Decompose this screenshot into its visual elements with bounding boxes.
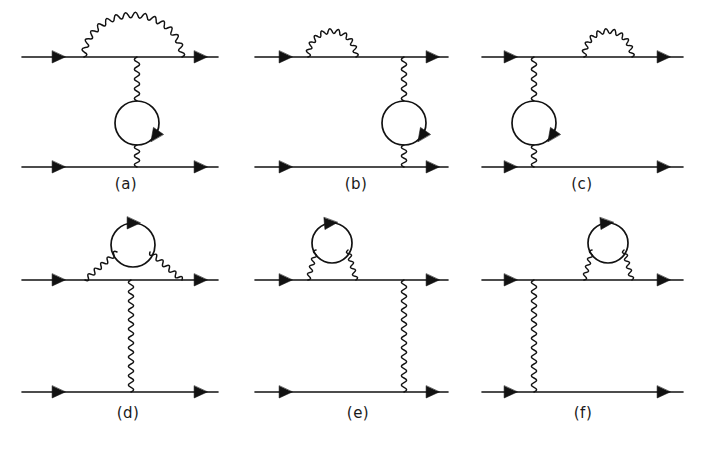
feynman-panel-d: [22, 217, 218, 398]
loop-arrow-icon: [151, 127, 163, 141]
photon-exchange-vertical: [128, 280, 133, 392]
fermion-arrow-icon: [279, 51, 292, 63]
fermion-arrow-icon: [426, 161, 439, 173]
photon-exchange-vertical: [401, 280, 406, 392]
panel-label-d: (d): [117, 404, 140, 422]
loop-arrow-icon: [418, 127, 430, 141]
loop-arrow-icon: [324, 218, 337, 230]
fermion-arrow-icon: [279, 274, 292, 286]
feynman-panel-a: [22, 12, 218, 173]
panel-label-a: (a): [115, 175, 137, 193]
photon-self-energy-arc: [582, 29, 634, 57]
fermion-arrow-icon: [426, 51, 439, 63]
loop-arrow-icon: [548, 127, 560, 141]
fermion-loop-circle: [111, 223, 155, 267]
photon-leg: [85, 251, 117, 280]
feynman-panel-e: [255, 218, 448, 398]
fermion-arrow-icon: [52, 51, 65, 63]
fermion-arrow-icon: [657, 274, 670, 286]
fermion-arrow-icon: [52, 386, 65, 398]
photon-exchange-vertical: [531, 280, 536, 392]
fermion-arrow-icon: [426, 386, 439, 398]
fermion-arrow-icon: [657, 51, 670, 63]
fermion-arrow-icon: [504, 274, 517, 286]
photon-exchange-vertical: [401, 145, 406, 167]
fermion-arrow-icon: [194, 161, 207, 173]
fermion-loop-circle: [588, 223, 628, 263]
loop-arrow-icon: [127, 217, 140, 229]
fermion-arrow-icon: [52, 161, 65, 173]
fermion-loop-circle: [312, 223, 352, 263]
panels-group: [22, 12, 683, 398]
fermion-arrow-icon: [194, 274, 207, 286]
feynman-panel-f: [482, 218, 683, 398]
fermion-arrow-icon: [426, 274, 439, 286]
fermion-arrow-icon: [52, 274, 65, 286]
fermion-arrow-icon: [194, 51, 207, 63]
fermion-arrow-icon: [657, 386, 670, 398]
feynman-diagram-figure: (a)(b)(c)(d)(e)(f): [0, 0, 711, 456]
photon-exchange-vertical: [401, 57, 406, 101]
panel-label-b: (b): [345, 175, 368, 193]
fermion-arrow-icon: [194, 386, 207, 398]
photon-exchange-vertical: [531, 145, 536, 167]
feynman-panel-c: [482, 29, 683, 173]
feynman-panel-b: [255, 29, 448, 173]
photon-exchange-vertical: [134, 57, 139, 101]
loop-arrow-icon: [600, 218, 613, 230]
photon-exchange-vertical: [531, 57, 536, 101]
panel-label-f: (f): [574, 404, 593, 422]
fermion-arrow-icon: [504, 161, 517, 173]
photon-self-energy-arc: [82, 12, 185, 57]
fermion-arrow-icon: [504, 51, 517, 63]
fermion-arrow-icon: [504, 386, 517, 398]
panel-label-c: (c): [571, 175, 592, 193]
panel-labels-group: (a)(b)(c)(d)(e)(f): [115, 175, 593, 422]
figure-canvas: (a)(b)(c)(d)(e)(f): [0, 0, 711, 456]
fermion-arrow-icon: [279, 161, 292, 173]
photon-self-energy-arc: [306, 29, 358, 57]
fermion-arrow-icon: [279, 386, 292, 398]
fermion-arrow-icon: [657, 161, 670, 173]
panel-label-e: (e): [347, 404, 369, 422]
photon-exchange-vertical: [134, 145, 139, 167]
photon-leg: [150, 252, 183, 280]
